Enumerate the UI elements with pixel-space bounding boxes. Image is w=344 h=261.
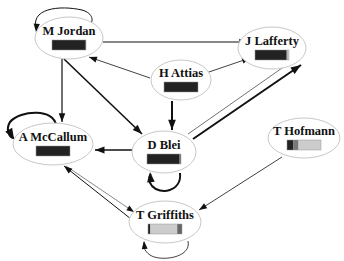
node-label: A McCallum bbox=[19, 130, 88, 144]
arrowhead-icon bbox=[59, 113, 66, 122]
arrowhead-icon bbox=[141, 241, 148, 249]
node-attias[interactable]: H Attias bbox=[151, 60, 211, 100]
arrowhead-icon bbox=[95, 146, 104, 153]
nodes-layer: M JordanJ LaffertyH AttiasA McCallumD Bl… bbox=[13, 17, 340, 243]
node-label: J Lafferty bbox=[245, 34, 300, 48]
node-blei[interactable]: D Blei bbox=[132, 131, 196, 173]
edge-jordan-to-mccallum bbox=[59, 59, 66, 122]
edge-jordan-to-blei bbox=[64, 59, 144, 137]
node-griffiths[interactable]: T Griffiths bbox=[129, 201, 201, 243]
node-lafferty[interactable]: J Lafferty bbox=[238, 27, 306, 69]
node-label: M Jordan bbox=[42, 24, 95, 38]
topic-distribution-bar bbox=[148, 224, 182, 234]
edge-attias-to-jordan bbox=[88, 54, 150, 78]
edge-attias-to-blei bbox=[168, 101, 176, 130]
edge-hofmann-to-griffiths bbox=[197, 157, 282, 212]
arrowhead-icon bbox=[88, 54, 97, 62]
author-influence-graph: M JordanJ LaffertyH AttiasA McCallumD Bl… bbox=[0, 0, 344, 261]
node-mccallum[interactable]: A McCallum bbox=[13, 123, 93, 165]
node-label: T Griffiths bbox=[136, 208, 194, 222]
edge-blei-to-mccallum bbox=[95, 146, 132, 153]
topic-distribution-bar bbox=[147, 154, 181, 164]
arrowhead-icon bbox=[146, 172, 155, 183]
topic-distribution-bar bbox=[36, 146, 70, 156]
node-hofmann[interactable]: T Hofmann bbox=[268, 118, 340, 158]
topic-distribution-bar bbox=[287, 140, 321, 150]
node-label: H Attias bbox=[159, 66, 203, 80]
graph-canvas: M JordanJ LaffertyH AttiasA McCallumD Bl… bbox=[0, 0, 344, 261]
topic-distribution-bar bbox=[255, 50, 289, 60]
arrowhead-icon bbox=[197, 203, 207, 212]
edge-jordan-to-lafferty bbox=[103, 39, 248, 46]
edge-griffiths-to-mccallum bbox=[62, 164, 131, 219]
node-label: T Hofmann bbox=[273, 124, 335, 138]
node-jordan[interactable]: M Jordan bbox=[35, 17, 103, 59]
node-label: D Blei bbox=[148, 138, 182, 152]
self-loop-blei bbox=[146, 172, 180, 191]
arrowhead-icon bbox=[168, 120, 176, 130]
topic-distribution-bar bbox=[164, 82, 198, 92]
topic-distribution-bar bbox=[52, 40, 86, 50]
edge-mccallum-to-griffiths bbox=[66, 166, 136, 214]
